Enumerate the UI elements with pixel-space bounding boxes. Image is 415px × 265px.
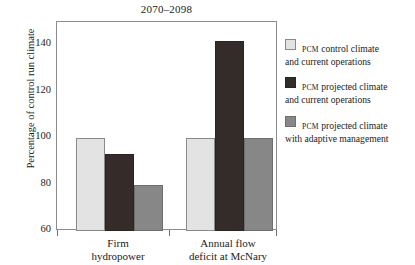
y-tick-label: 120 <box>22 84 51 95</box>
y-tick-label: 80 <box>22 177 51 188</box>
legend-label-line1: control climate <box>319 43 379 54</box>
legend-swatch-2 <box>285 116 296 127</box>
chart-legend: PCM control climateand current operation… <box>285 38 413 153</box>
legend-label-2: PCM projected climatewith adaptive manag… <box>285 120 413 144</box>
bar-chart-figure: 2070–2098 Percentage of control run clim… <box>0 0 415 265</box>
plot-area <box>56 21 277 230</box>
category-label-line1: Annual flow <box>200 237 255 249</box>
legend-label-acronym: PCM <box>302 122 319 131</box>
legend-label-1: PCM projected climateand current operati… <box>285 81 413 105</box>
legend-label-line1: projected climate <box>319 81 388 92</box>
category-label-0: Firmhydropower <box>58 237 178 263</box>
legend-item-1: PCM projected climateand current operati… <box>285 76 413 105</box>
category-label-line2: deficit at McNary <box>168 250 288 263</box>
x-tick-mark-2 <box>276 230 277 236</box>
legend-item-0: PCM control climateand current operation… <box>285 38 413 67</box>
bar-group-1-series-2 <box>244 138 273 231</box>
bar-group-0-series-1 <box>105 154 134 231</box>
legend-label-line1: projected climate <box>319 120 388 131</box>
legend-label-0: PCM control climateand current operation… <box>285 43 413 67</box>
x-tick-mark-1 <box>169 230 170 236</box>
category-label-line1: Firm <box>107 237 128 249</box>
bar-group-0-series-2 <box>134 185 163 231</box>
legend-label-line2: with adaptive management <box>285 133 413 144</box>
y-tick-label: 140 <box>22 37 51 48</box>
y-axis-label: Percentage of control run climate <box>25 9 36 189</box>
legend-label-line2: and current operations <box>285 94 413 105</box>
chart-title: 2070–2098 <box>56 3 277 15</box>
y-tick-label: 60 <box>22 223 51 234</box>
legend-label-line2: and current operations <box>285 56 413 67</box>
bar-group-1-series-1 <box>215 41 244 231</box>
legend-swatch-1 <box>285 77 296 88</box>
bar-group-1-series-0 <box>186 138 215 231</box>
category-label-1: Annual flowdeficit at McNary <box>168 237 288 263</box>
bar-group-0-series-0 <box>76 138 105 231</box>
y-tick-label: 100 <box>22 130 51 141</box>
category-label-line2: hydropower <box>58 250 178 263</box>
legend-swatch-0 <box>285 39 296 50</box>
x-tick-mark-0 <box>57 230 58 236</box>
legend-label-acronym: PCM <box>302 83 319 92</box>
legend-item-2: PCM projected climatewith adaptive manag… <box>285 115 413 144</box>
legend-label-acronym: PCM <box>302 45 319 54</box>
